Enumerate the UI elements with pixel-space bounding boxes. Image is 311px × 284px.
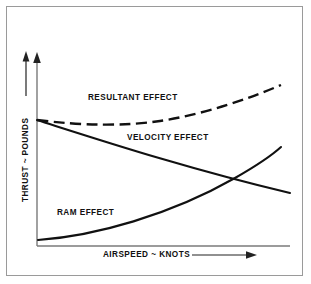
y-label-arrow-up-icon: [23, 51, 30, 62]
figure-root: RESULTANT EFFECT VELOCITY EFFECT RAM EFF…: [0, 0, 311, 284]
y-axis-label: THRUST ~ POUNDS: [22, 118, 30, 202]
x-label-arrow-right-icon: [246, 251, 257, 259]
curve-label-resultant-effect: RESULTANT EFFECT: [88, 94, 178, 102]
curve-label-velocity-effect: VELOCITY EFFECT: [127, 134, 209, 142]
curve-resultant-effect: [37, 85, 281, 125]
x-axis-label: AIRSPEED ~ KNOTS: [103, 251, 190, 259]
curve-velocity-effect: [37, 120, 290, 193]
axis-label-leaders: [23, 51, 257, 259]
curve-label-ram-effect: RAM EFFECT: [57, 209, 114, 217]
arrow-up-icon: [33, 52, 41, 63]
curve-ram-effect: [38, 147, 281, 240]
